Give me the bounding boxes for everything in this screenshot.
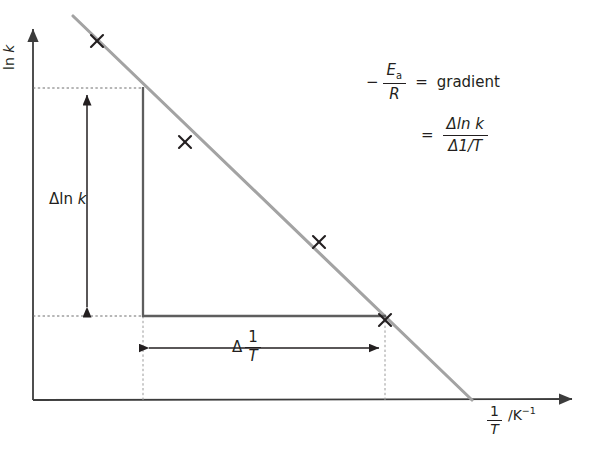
- delta-one-over-T-denominator: T: [245, 348, 260, 365]
- arrhenius-plot-figure: ln k 1 T /K−1 Δln k Δ 1 T − Ea R = gradi…: [0, 0, 597, 452]
- delta-one-over-T-delta: Δ: [232, 340, 242, 355]
- delta-one-over-T-numerator: 1: [245, 330, 261, 348]
- equation-ea-over-r-fraction: Ea R: [383, 62, 407, 104]
- x-axis-label-unit-exponent: −1: [522, 405, 536, 416]
- y-axis-label-prefix: ln: [1, 53, 17, 70]
- guide-lines-group: [33, 88, 385, 400]
- equation-r-denominator: R: [385, 84, 403, 103]
- x-axis-label-unit-prefix: /K: [508, 407, 522, 423]
- equation-gradient-word: gradient: [437, 75, 500, 90]
- equation-delta-one-over-T-denominator: Δ1/T: [444, 136, 486, 155]
- y-axis-label: ln k: [2, 45, 16, 70]
- x-axis-line: [33, 399, 572, 400]
- y-axis-label-variable: k: [1, 45, 17, 53]
- dimension-arrows-group: [87, 95, 379, 348]
- gradient-equation: − Ea R = gradient = Δln k Δ1/T: [366, 62, 500, 155]
- equation-equals-sign-1: =: [415, 75, 428, 90]
- x-axis-label-unit: /K−1: [508, 404, 536, 422]
- equation-equals-sign-2: =: [421, 128, 434, 143]
- delta-ln-k-label: Δln k: [49, 192, 86, 207]
- x-axis-label: 1 T /K−1: [487, 404, 536, 436]
- delta-one-over-T-label: Δ 1 T: [232, 330, 261, 365]
- x-axis-label-denominator: T: [487, 421, 502, 437]
- delta-ln-k-text: ln: [59, 190, 77, 208]
- delta-ln-k-delta: Δ: [49, 190, 59, 208]
- data-point-marker-3: [313, 236, 325, 248]
- equation-delta-ln-k-numerator: Δln k: [443, 116, 488, 136]
- gradient-equation-line-1: − Ea R = gradient: [366, 62, 500, 104]
- equation-ea-subscript: a: [396, 70, 402, 81]
- equation-delta-ratio-fraction: Δln k Δ1/T: [443, 116, 488, 156]
- plot-canvas: [0, 0, 597, 452]
- x-axis-label-fraction: 1 T: [487, 404, 502, 436]
- equation-minus-sign: −: [366, 75, 379, 90]
- x-axis-label-numerator: 1: [487, 404, 502, 421]
- delta-one-over-T-fraction: 1 T: [245, 330, 261, 365]
- equation-ea-symbol: E: [387, 61, 396, 79]
- data-point-marker-2: [179, 136, 191, 148]
- gradient-equation-line-2: = Δln k Δ1/T: [412, 116, 500, 156]
- equation-ea-numerator: Ea: [383, 62, 407, 84]
- delta-ln-k-variable: k: [78, 190, 87, 208]
